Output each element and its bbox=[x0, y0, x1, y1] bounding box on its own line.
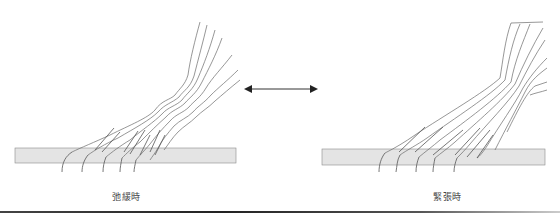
tense-panel: 緊張時 bbox=[315, 0, 560, 210]
bidirectional-arrow-icon bbox=[244, 80, 318, 98]
relaxed-panel: 弛緩時 bbox=[0, 0, 245, 210]
tense-fiber-illustration bbox=[315, 0, 560, 210]
tense-straight-fibers bbox=[385, 22, 547, 158]
relaxed-label: 弛緩時 bbox=[112, 190, 141, 203]
tense-label: 緊張時 bbox=[433, 190, 462, 203]
tense-membrane-band bbox=[322, 149, 545, 165]
bottom-divider bbox=[0, 211, 560, 213]
relaxed-fiber-illustration bbox=[0, 0, 245, 210]
